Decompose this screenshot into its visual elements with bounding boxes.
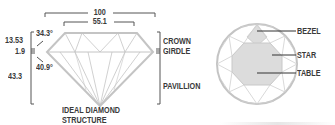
- crown-label: CROWN: [163, 37, 191, 46]
- girdle-label: GIRDLE: [163, 47, 190, 56]
- crown-angle-label: 34.3°: [36, 29, 53, 38]
- diagram-title-line2: STRUCTURE: [62, 116, 107, 125]
- right-bracket: [156, 32, 160, 104]
- crown-height-label: 13.53: [5, 36, 23, 45]
- pavilion-label: PAVILLION: [163, 82, 200, 91]
- footer-rule: [220, 122, 335, 125]
- bezel-label: BEZEL: [297, 27, 321, 36]
- pavilion-depth-label: 43.3: [8, 72, 22, 81]
- table-label: TABLE: [297, 69, 321, 78]
- pavilion-angle-label: 40.9°: [36, 63, 53, 72]
- diamond-side-view: [47, 33, 153, 106]
- girdle-thickness-label: 1.9: [15, 47, 25, 56]
- star-label: STAR: [297, 51, 316, 60]
- table-width-label: 55.1: [91, 17, 108, 26]
- diagram-title-line1: IDEAL DIAMOND: [62, 106, 120, 115]
- diamond-top-view: [217, 24, 297, 104]
